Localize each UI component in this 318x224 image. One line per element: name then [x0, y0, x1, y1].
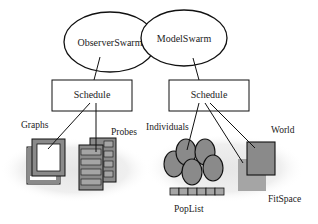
swarm-architecture-diagram: ObserverSwarm ModelSwarm Schedule Schedu… [0, 0, 318, 224]
world-label: World [271, 125, 295, 135]
observer-schedule-label: Schedule [74, 89, 111, 100]
model-swarm-node: ModelSwarm [141, 10, 227, 66]
graphs-label: Graphs [21, 120, 49, 130]
model-swarm-label: ModelSwarm [157, 33, 212, 44]
observer-haze [0, 138, 150, 202]
observer-schedule-node: Schedule [52, 80, 132, 111]
model-schedule-node: Schedule [169, 80, 249, 111]
world-icon [247, 142, 275, 175]
probes-icon [79, 138, 116, 190]
probes-label: Probes [111, 127, 137, 137]
observer-swarm-label: ObserverSwarm [78, 37, 143, 48]
individuals-label: Individuals [146, 122, 189, 132]
poplist-icon [170, 188, 224, 195]
graphs-icon [27, 139, 65, 184]
model-schedule-label: Schedule [191, 89, 228, 100]
poplist-label: PopList [174, 204, 204, 214]
fitspace-label: FitSpace [268, 194, 301, 204]
